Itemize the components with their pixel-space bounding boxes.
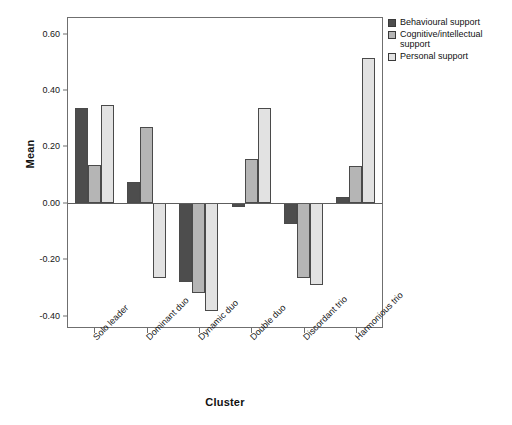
legend-swatch-icon [388, 19, 396, 27]
bar [349, 166, 362, 203]
bar [258, 108, 271, 203]
legend-item-label: Cognitive/intellectual support [400, 29, 508, 50]
legend-item-label: Personal support [400, 51, 468, 62]
bar [362, 58, 375, 203]
y-tick-label: 0.40 [42, 85, 68, 95]
legend-item-label: Behavioural support [400, 17, 480, 28]
bar-chart-figure: Mean 0.600.400.200.00-0.20-0.40 Solo lea… [0, 0, 512, 425]
bar [101, 105, 114, 203]
x-axis-title: Cluster [67, 396, 383, 408]
bar [310, 203, 323, 285]
bar [140, 127, 153, 203]
bar [297, 203, 310, 278]
y-tick-label: 0.00 [42, 198, 68, 208]
bar [205, 203, 218, 312]
chart-legend: Behavioural supportCognitive/intellectua… [388, 17, 508, 62]
bar-series-group [68, 18, 382, 327]
bar [127, 182, 140, 203]
y-tick-label: -0.40 [39, 311, 68, 321]
bar [153, 203, 166, 278]
legend-swatch-icon [388, 31, 396, 39]
legend-swatch-icon [388, 53, 396, 61]
y-tick-label: -0.20 [39, 254, 68, 264]
plot-area: 0.600.400.200.00-0.20-0.40 Solo leaderDo… [67, 17, 383, 328]
legend-item: Cognitive/intellectual support [388, 29, 508, 50]
y-axis-title: Mean [24, 134, 36, 174]
bar [192, 203, 205, 293]
y-tick-label: 0.60 [42, 29, 68, 39]
bar [75, 108, 88, 203]
bar [179, 203, 192, 282]
bar [284, 203, 297, 224]
bar [245, 159, 258, 203]
y-tick-label: 0.20 [42, 141, 68, 151]
legend-item: Personal support [388, 51, 508, 62]
legend-item: Behavioural support [388, 17, 508, 28]
zero-baseline [68, 203, 382, 204]
bar [88, 165, 101, 203]
